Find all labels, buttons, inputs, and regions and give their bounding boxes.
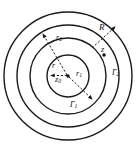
label-radius-r2-sub: 2 [59,36,62,42]
label-contour-gamma2: Γ2 [112,69,119,78]
label-radius-r: r [52,62,55,70]
label-point-z: z [101,46,104,54]
label-radius-r1-sub: 1 [79,72,82,78]
label-radius-r1: r1 [76,70,82,79]
label-contour-gamma2-sub: 2 [117,71,120,77]
label-center-z0-sub: 0 [58,78,61,84]
label-center-z0: z0 [55,76,61,85]
label-contour-gamma1-sub: 1 [75,103,78,109]
label-radius-r2: r2 [56,34,62,43]
figure-container: r z0 r1 r2 R z Γ1 Γ2 [0,0,137,150]
label-radius-R: R [99,23,105,32]
label-contour-gamma1: Γ1 [70,101,77,110]
